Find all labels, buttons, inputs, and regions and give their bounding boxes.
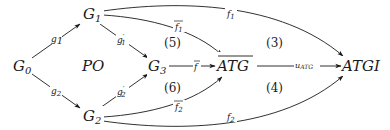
node-g1: G1 <box>82 4 104 24</box>
region-3: (3) <box>266 36 283 50</box>
svg-text:ATGI: ATGI <box>340 57 381 75</box>
node-po: PO <box>81 57 104 75</box>
svg-text:ATG: ATG <box>215 57 249 75</box>
label-f2-bar: f2 <box>173 100 185 114</box>
label-g2-prime: g′2 <box>116 85 129 99</box>
svg-text:g1: g1 <box>51 34 63 46</box>
svg-text:PO: PO <box>81 57 104 75</box>
label-f-bar: f <box>193 60 201 72</box>
region-6: (6) <box>164 81 181 95</box>
node-g3: G3 <box>147 56 169 76</box>
label-f1-bar: f1 <box>173 20 185 34</box>
region-4: (4) <box>266 81 283 95</box>
region-5: (5) <box>164 36 181 50</box>
label-f1: f1 <box>225 8 237 21</box>
label-u-atg: uATG <box>294 60 320 71</box>
edge-f2 <box>103 76 343 126</box>
node-g2: G2 <box>82 106 104 126</box>
commutative-diagram: g1 g2 g′1 g′2 f f1 f2 <box>0 0 390 130</box>
label-g2: g2 <box>50 86 62 98</box>
node-g0: G0 <box>10 56 32 76</box>
label-g1-prime: g′1 <box>116 33 129 47</box>
edge-f1 <box>103 6 343 56</box>
svg-text:uATG: uATG <box>295 61 313 70</box>
node-atgi: ATGI <box>340 56 388 76</box>
node-atg-bar: ATG <box>215 52 257 75</box>
